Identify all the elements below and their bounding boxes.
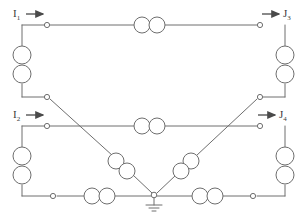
label-i1: I1 [13, 8, 20, 22]
wire-diagonal-left-upper [50, 99, 113, 156]
terminal-node-output-bottom[interactable] [257, 123, 262, 128]
wire-diagonal-right-lower [157, 175, 176, 193]
junction-node-upper-left[interactable] [44, 94, 49, 99]
coil-bottom-right-vertical [276, 147, 294, 184]
junction-node-bottom-left[interactable] [50, 193, 55, 198]
label-j3-sub: 3 [287, 14, 291, 22]
circuit-diagram-canvas: I1 J3 I2 J4 [0, 0, 307, 217]
coil-top-right-vertical [276, 46, 294, 83]
circuit-schematic [0, 0, 307, 217]
wire-diagonal-right-upper [196, 99, 257, 156]
ground-junction-node[interactable] [151, 192, 157, 198]
label-i2-sub: 2 [17, 115, 21, 123]
label-j4: J4 [279, 109, 287, 123]
coil-bottom-left-vertical [13, 147, 31, 184]
label-i2: I2 [13, 109, 20, 123]
junction-node-upper-right[interactable] [257, 94, 262, 99]
coil-top-left-vertical [13, 46, 31, 83]
terminal-node-output-top[interactable] [257, 22, 262, 27]
terminal-node-input-top[interactable] [44, 22, 49, 27]
label-j4-sub: 4 [283, 115, 287, 123]
coil-mid-horizontal [134, 118, 165, 134]
coil-diagonal-left [108, 153, 135, 179]
junction-node-bottom-right[interactable] [250, 193, 255, 198]
label-j3: J3 [283, 8, 291, 22]
terminal-node-input-bottom[interactable] [44, 123, 49, 128]
label-i1-sub: 1 [17, 14, 21, 22]
coil-diagonal-right [173, 153, 199, 179]
coil-top-horizontal [134, 17, 165, 33]
wire-diagonal-left-lower [133, 175, 152, 193]
coil-bottom-right-horizontal [192, 188, 223, 204]
coil-bottom-left-horizontal [84, 188, 115, 204]
